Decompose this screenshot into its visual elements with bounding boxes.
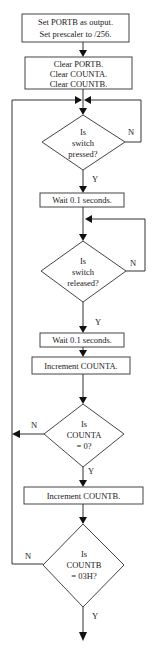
decision-3-line-1: Is [81,419,87,429]
decision-2-line-3: released? [67,278,99,288]
decision-4-line-1: Is [81,549,87,559]
decision-countb-03h: Is COUNTB = 03H? [43,524,124,607]
decision-1-line-1: Is [80,127,86,137]
arrow-left-icon [84,96,91,104]
decision-1-no-label: N [128,127,134,137]
process-box-clear: Clear PORTB. Clear COUNTA. Clear COUNTB. [25,57,132,89]
decision-2-no-label: N [130,258,136,268]
process-4-line-1: Wait 0.1 seconds. [52,335,112,345]
arrow-right-icon [75,96,82,104]
process-box-wait-1: Wait 0.1 seconds. [40,193,124,207]
arrow-down-icon [79,517,87,524]
process-box-set-portb: Set PORTB as output. Set prescaler to /2… [22,14,129,42]
decision-4-line-2: COUNTB [67,560,102,570]
decision-1-line-3: pressed? [68,149,97,159]
process-box-wait-2: Wait 0.1 seconds. [40,333,124,347]
arrow-down-icon [79,480,87,487]
process-2-line-1: Clear PORTB. [54,59,104,69]
decision-3-line-2: COUNTA [67,430,103,440]
process-5-line-1: Increment COUNTA. [44,361,117,371]
arrow-down-icon [79,397,87,404]
process-6-line-1: Increment COUNTB. [47,491,121,501]
arrow-down-icon [79,234,87,241]
decision-switch-released: Is switch released? [41,241,126,302]
decision-4-line-3: = 03H? [71,571,97,581]
arrow-down-icon [79,186,87,193]
decision-counta-zero: Is COUNTA = 0? [44,404,124,467]
process-1-line-2: Set prescaler to /256. [40,29,112,39]
process-box-increment-countb: Increment COUNTB. [24,487,143,504]
process-box-increment-counta: Increment COUNTA. [32,357,130,374]
flowchart: Set PORTB as output. Set prescaler to /2… [0,0,156,653]
decision-2-line-1: Is [80,256,86,266]
arrow-down-icon [79,350,87,357]
decision-1-line-2: switch [72,138,95,148]
decision-1-yes-label: Y [92,174,98,184]
process-1-line-1: Set PORTB as output. [38,17,113,27]
process-3-line-1: Wait 0.1 seconds. [52,195,112,205]
arrow-down-icon [79,632,87,641]
decision-3-yes-label: Y [88,466,94,476]
decision-2-line-2: switch [72,267,95,277]
arrow-down-icon [79,326,87,333]
decision-3-line-3: = 0? [77,441,92,451]
process-2-line-3: Clear COUNTB. [50,79,108,89]
decision-3-no-label: N [31,420,37,430]
arrow-down-icon [79,50,87,57]
arrow-left-icon [12,430,20,438]
arrow-left-icon [85,215,92,223]
decision-switch-pressed: Is switch pressed? [42,115,125,170]
decision-4-no-label: N [25,551,31,561]
arrow-down-icon [79,108,87,115]
decision-4-yes-label: Y [92,611,98,621]
process-2-line-2: Clear COUNTA. [50,69,107,79]
decision-2-yes-label: Y [95,317,101,327]
